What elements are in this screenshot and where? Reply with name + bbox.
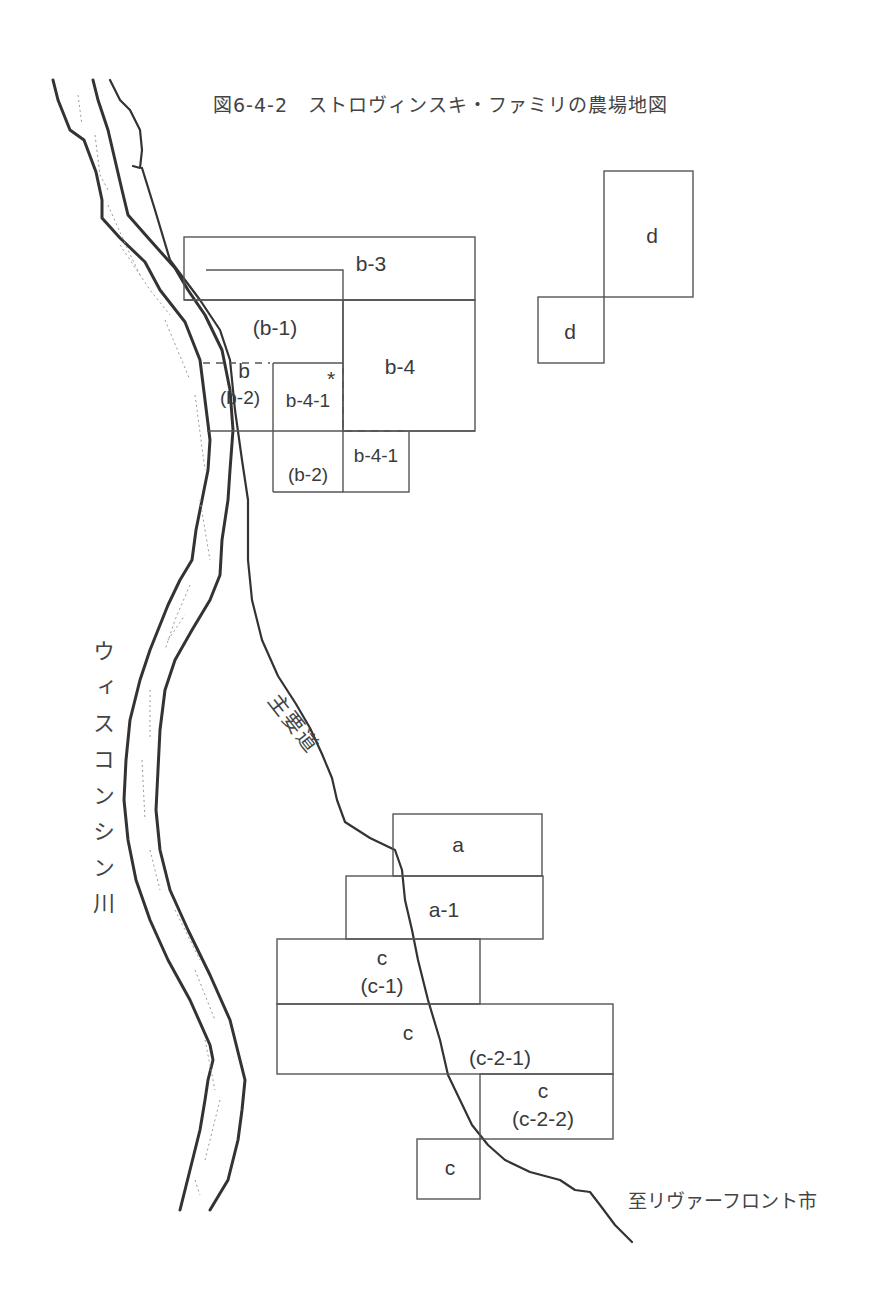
river-label: ウィスコンシン川 (85, 640, 117, 928)
label-c-mid: c (403, 1022, 414, 1043)
river (53, 80, 245, 1210)
label-d-large: d (646, 225, 658, 246)
plots-d (538, 171, 693, 363)
asterisk-mark: * (327, 368, 335, 389)
label-c-2-2: (c-2-2) (512, 1108, 574, 1129)
label-c-top: c (377, 947, 388, 968)
label-b-1: (b-1) (253, 317, 297, 338)
plots-b (184, 237, 475, 492)
plot-b-3 (184, 237, 475, 300)
destination-label: 至リヴァーフロント市 (628, 1186, 817, 1213)
label-a-1: a-1 (429, 899, 459, 920)
label-a: a (452, 834, 464, 855)
label-b: b (238, 360, 250, 381)
label-c-bottom: c (445, 1157, 456, 1178)
figure-title: 図6-4-2 ストロヴィンスキ・ファミリの農場地図 (213, 90, 668, 117)
label-c-right: c (538, 1080, 549, 1101)
label-b-2-upper: (b-2) (220, 388, 260, 407)
river-left-bank (53, 80, 213, 1210)
plot-a (393, 814, 542, 876)
label-c-2-1: (c-2-1) (469, 1047, 531, 1068)
farm-map (0, 0, 875, 1295)
label-b-4: b-4 (385, 356, 415, 377)
label-b-4-1-lower: b-4-1 (354, 446, 398, 465)
label-b-3: b-3 (356, 253, 386, 274)
label-b-2-lower: (b-2) (288, 465, 328, 484)
label-b-4-1-upper: b-4-1 (286, 391, 330, 410)
label-d-small: d (564, 321, 576, 342)
label-c-1: (c-1) (360, 975, 403, 996)
